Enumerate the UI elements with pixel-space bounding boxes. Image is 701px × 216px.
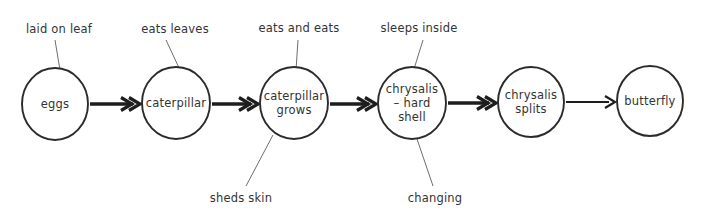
node-chrysalis-splits[interactable]: chrysalissplits (498, 67, 564, 137)
node-label-eggs: eggs (41, 97, 69, 111)
node-label-line: chrysalis (386, 82, 438, 96)
diagram-canvas: eggscaterpillarcaterpillargrowschrysalis… (0, 0, 701, 216)
arrow-eggs-to-caterpillar (90, 98, 140, 111)
node-label-line: – hard (394, 96, 431, 110)
arrow-splits-to-butterfly (566, 96, 615, 108)
node-chrysalis-hard-shell[interactable]: chrysalis– hardshell (378, 67, 446, 139)
arrow-caterpillar-to-grows (212, 98, 258, 111)
node-label-butterfly: butterfly (624, 94, 675, 108)
node-label-caterpillar: caterpillar (146, 96, 207, 110)
annotation-eats-leaves (166, 40, 180, 70)
leader-line-eats-leaves (166, 40, 180, 70)
annotation-eats-and-eats (296, 40, 298, 70)
leader-line-changing (416, 136, 433, 186)
leader-line-eats-and-eats (296, 40, 298, 70)
node-label-line: chrysalis (505, 88, 557, 102)
node-caterpillar-grows[interactable]: caterpillargrows (260, 67, 328, 139)
arrow-chrysalis-to-splits (448, 97, 496, 110)
annotation-label-eats-and-eats: eats and eats (259, 21, 340, 35)
node-label-line: grows (276, 103, 311, 117)
annotation-label-sleeps-inside: sleeps inside (381, 21, 458, 35)
annotation-changing (416, 136, 433, 186)
annotation-label-laid-on-leaf: laid on leaf (26, 22, 93, 36)
node-label-line: caterpillar (146, 96, 207, 110)
node-eggs[interactable]: eggs (22, 68, 88, 140)
node-label-line: eggs (41, 97, 69, 111)
leader-line-sleeps-inside (414, 40, 423, 69)
node-butterfly[interactable]: butterfly (617, 66, 683, 136)
annotation-laid-on-leaf (55, 40, 60, 70)
annotation-label-changing: changing (408, 191, 463, 205)
life-cycle-diagram: eggscaterpillarcaterpillargrowschrysalis… (0, 0, 701, 216)
node-label-line: splits (515, 102, 546, 116)
node-label-line: caterpillar (264, 89, 325, 103)
annotation-sheds-skin (246, 135, 273, 186)
annotation-label-eats-leaves: eats leaves (141, 22, 209, 36)
node-caterpillar[interactable]: caterpillar (142, 67, 210, 139)
leader-line-sheds-skin (246, 135, 273, 186)
annotation-sleeps-inside (414, 40, 423, 69)
node-label-line: shell (398, 110, 426, 124)
leader-line-laid-on-leaf (55, 40, 60, 70)
node-label-line: butterfly (624, 94, 675, 108)
annotation-label-sheds-skin: sheds skin (210, 191, 272, 205)
arrow-grows-to-chrysalis (330, 98, 376, 111)
